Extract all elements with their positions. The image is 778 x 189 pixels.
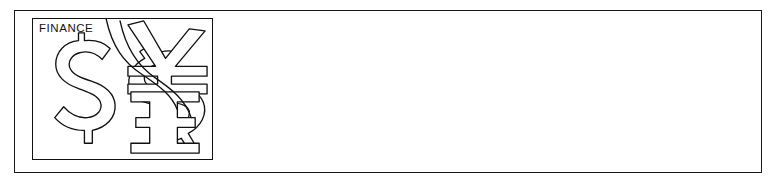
banner-frame: FINANCE xyxy=(14,10,762,173)
dollar-sign-large-icon xyxy=(55,33,115,143)
banner-content-area xyxy=(215,11,761,172)
finance-banner: FINANCE xyxy=(0,0,778,189)
pound-sterling-sign-icon xyxy=(131,92,199,153)
finance-logo-box: FINANCE xyxy=(32,18,213,160)
logo-caption-finance: FINANCE xyxy=(39,23,93,35)
currency-symbols-line-art xyxy=(33,19,212,159)
